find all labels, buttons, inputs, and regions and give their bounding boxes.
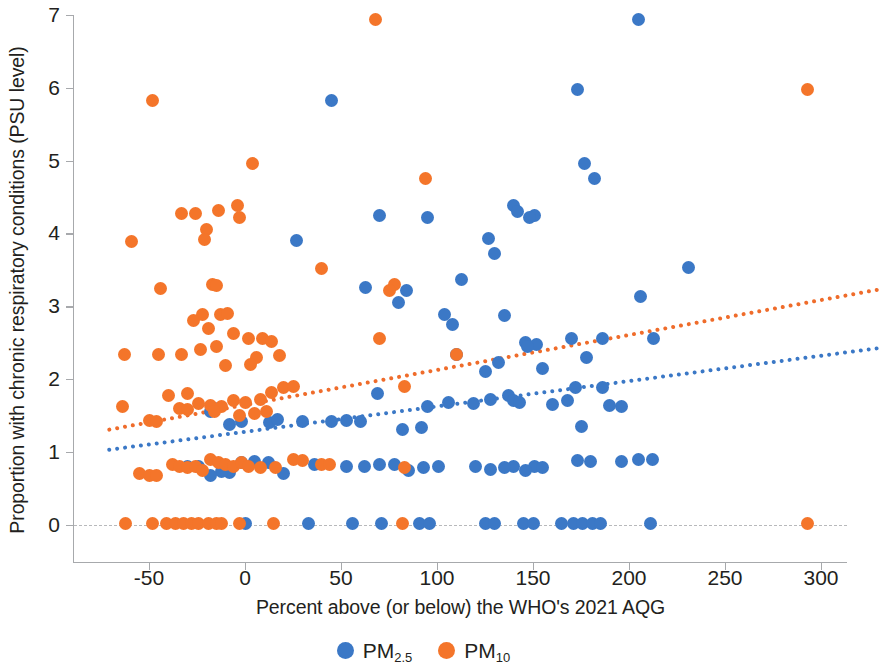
data-point-pm25 (373, 209, 386, 222)
data-point-pm25 (492, 356, 505, 369)
y-tick-label: 6 (30, 77, 60, 98)
data-point-pm10 (202, 322, 215, 335)
data-point-pm10 (175, 348, 188, 361)
legend-label: PM2.5 (363, 640, 413, 661)
data-point-pm10 (150, 469, 163, 482)
data-point-pm10 (181, 403, 194, 416)
data-point-pm25 (469, 460, 482, 473)
y-tick-label: 3 (30, 295, 60, 316)
x-tick-label: 200 (594, 566, 664, 590)
x-tick-label: 100 (402, 566, 472, 590)
data-point-pm10 (383, 284, 396, 297)
data-point-pm25 (442, 396, 455, 409)
data-point-pm25 (482, 232, 495, 245)
data-point-pm25 (561, 394, 574, 407)
data-point-pm25 (536, 461, 549, 474)
data-point-pm25 (644, 517, 657, 530)
y-tick-mark (66, 306, 73, 307)
data-point-pm10 (233, 517, 246, 530)
data-point-pm10 (187, 314, 200, 327)
x-tick-label: -50 (114, 566, 184, 590)
data-point-pm25 (571, 83, 584, 96)
x-tick-label: 0 (210, 566, 280, 590)
data-point-pm10 (198, 233, 211, 246)
data-point-pm10 (116, 400, 129, 413)
y-tick-mark (66, 15, 73, 16)
data-point-pm25 (340, 460, 353, 473)
data-point-pm25 (375, 517, 388, 530)
data-point-pm10 (181, 387, 194, 400)
data-point-pm10 (146, 517, 159, 530)
data-point-pm25 (571, 454, 584, 467)
data-point-pm25 (488, 517, 501, 530)
data-point-pm25 (484, 393, 497, 406)
data-point-pm10 (323, 458, 336, 471)
data-point-pm25 (455, 273, 468, 286)
data-point-pm25 (432, 460, 445, 473)
chart-legend: PM2.5PM10 (0, 640, 847, 661)
data-point-pm25 (290, 234, 303, 247)
data-point-pm10 (315, 262, 328, 275)
data-point-pm25 (400, 284, 413, 297)
data-point-pm25 (358, 460, 371, 473)
data-point-pm25 (346, 517, 359, 530)
data-point-pm25 (682, 261, 695, 274)
legend-item-pm10[interactable]: PM10 (438, 640, 510, 661)
y-tick-mark (66, 88, 73, 89)
data-point-pm25 (467, 397, 480, 410)
data-point-pm10 (244, 358, 257, 371)
data-point-pm25 (396, 423, 409, 436)
data-point-pm10 (208, 405, 221, 418)
data-point-pm10 (398, 380, 411, 393)
y-tick-label: 0 (30, 514, 60, 535)
data-point-pm10 (119, 517, 132, 530)
y-tick-label: 1 (30, 441, 60, 462)
data-point-pm10 (369, 13, 382, 26)
y-tick-mark (66, 452, 73, 453)
legend-swatch-icon (438, 642, 455, 659)
data-point-pm25 (615, 400, 628, 413)
x-tick-label: 50 (306, 566, 376, 590)
data-point-pm25 (536, 362, 549, 375)
data-point-pm10 (175, 207, 188, 220)
data-point-pm10 (239, 396, 252, 409)
data-point-pm10 (221, 307, 234, 320)
data-point-pm10 (242, 332, 255, 345)
y-tick-label: 7 (30, 4, 60, 25)
y-tick-mark (66, 233, 73, 234)
data-point-pm25 (632, 453, 645, 466)
data-point-pm10 (210, 340, 223, 353)
x-tick-label: 150 (498, 566, 568, 590)
data-point-pm10 (146, 94, 159, 107)
data-point-pm25 (423, 517, 436, 530)
data-point-pm25 (421, 211, 434, 224)
data-point-pm25 (546, 398, 559, 411)
data-point-pm25 (523, 211, 536, 224)
y-tick-label: 5 (30, 150, 60, 171)
legend-label: PM10 (464, 640, 510, 661)
data-point-pm10 (246, 157, 259, 170)
data-point-pm25 (359, 281, 372, 294)
data-point-pm25 (569, 381, 582, 394)
data-point-pm25 (596, 332, 609, 345)
data-point-pm10 (154, 282, 167, 295)
data-point-pm25 (527, 517, 540, 530)
y-tick-mark (66, 379, 73, 380)
data-point-pm25 (513, 396, 526, 409)
data-point-pm25 (519, 464, 532, 477)
x-tick-label: 300 (786, 566, 856, 590)
data-point-pm10 (265, 335, 278, 348)
data-point-pm10 (273, 349, 286, 362)
data-point-pm25 (354, 415, 367, 428)
data-point-pm25 (498, 461, 511, 474)
data-point-pm10 (233, 211, 246, 224)
legend-item-pm25[interactable]: PM2.5 (337, 640, 413, 661)
data-point-pm10 (419, 172, 432, 185)
data-point-pm25 (632, 13, 645, 26)
data-point-pm25 (498, 309, 511, 322)
legend-swatch-icon (337, 642, 354, 659)
data-point-pm10 (287, 380, 300, 393)
data-point-pm25 (392, 296, 405, 309)
data-point-pm10 (373, 332, 386, 345)
